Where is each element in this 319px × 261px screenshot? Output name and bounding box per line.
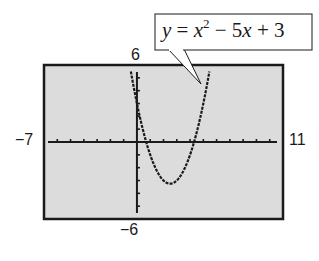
ymax-label: 6 [131,46,140,64]
xmin-label: −7 [15,131,33,149]
graph-figure: y = x2 − 5x + 3 6 −7 11 −6 [0,0,319,261]
equation-label: y = x2 − 5x + 3 [162,18,285,43]
xmax-label: 11 [289,131,306,149]
ymin-label: −6 [120,221,138,239]
